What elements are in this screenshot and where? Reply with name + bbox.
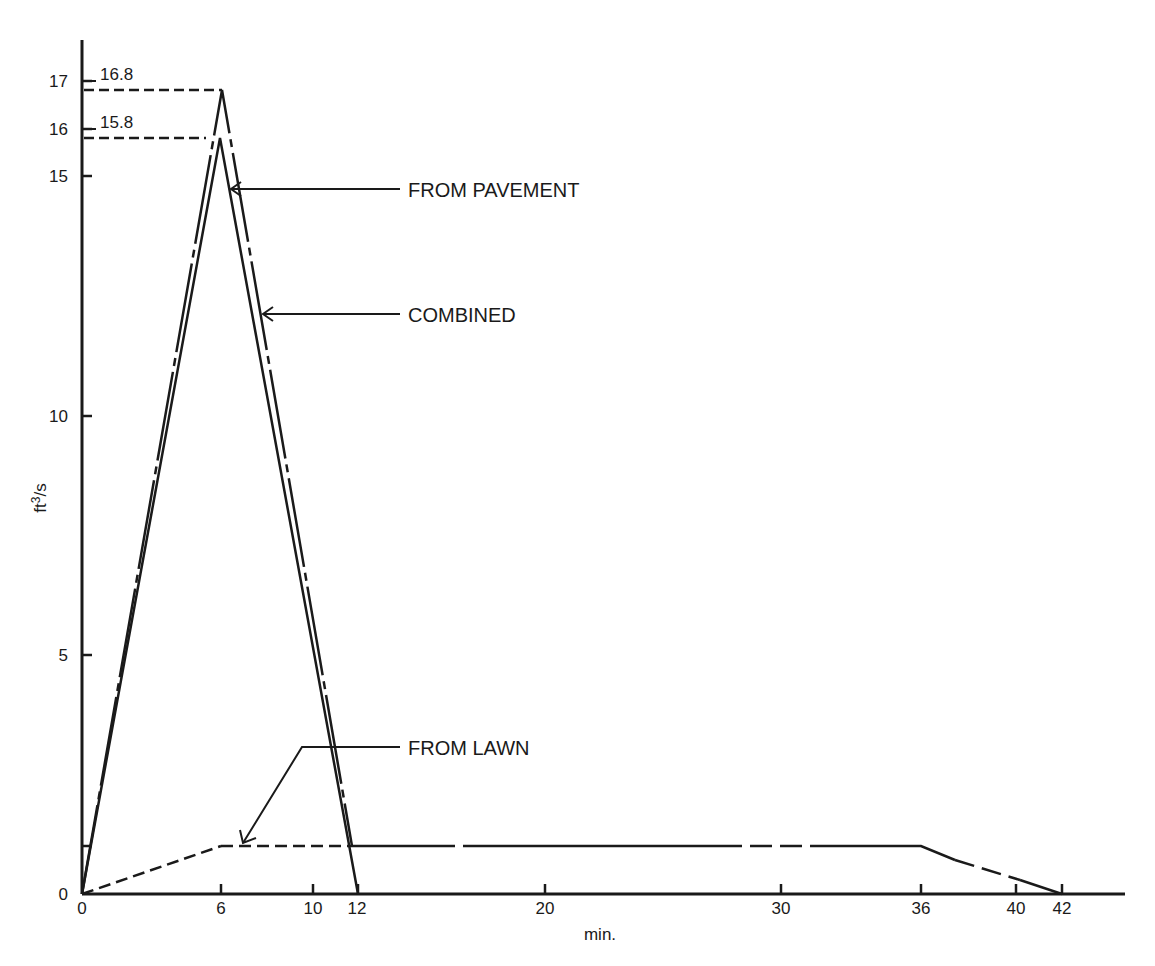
series-combined-recession-dashed <box>955 860 1020 880</box>
leader-combined <box>263 307 400 321</box>
series-from-pavement <box>82 138 358 894</box>
x-tick-36: 36 <box>912 899 931 918</box>
series-combined-recession-end <box>1020 880 1062 894</box>
x-axis-title: min. <box>584 925 616 944</box>
x-tick-10: 10 <box>304 899 323 918</box>
x-tick-12: 12 <box>348 899 367 918</box>
y-tick-0: 0 <box>59 885 68 904</box>
series-combined-plateau-4 <box>830 846 955 860</box>
label-from-lawn: FROM LAWN <box>408 737 529 759</box>
leader-from-pavement <box>231 182 400 196</box>
label-from-pavement: FROM PAVEMENT <box>408 179 579 201</box>
x-tick-20: 20 <box>536 899 555 918</box>
y-tick-labels: 17 16 15 10 5 0 <box>49 72 68 904</box>
y-tick-5: 5 <box>59 646 68 665</box>
peak-pavement-label: 15.8 <box>100 113 133 132</box>
y-axis-title: ft3/s <box>29 483 50 512</box>
series-combined <box>82 90 352 894</box>
hydrograph-chart: 17 16 15 10 5 0 0 6 10 12 20 30 36 40 42… <box>0 0 1155 966</box>
y-tick-17: 17 <box>49 72 68 91</box>
x-tick-6: 6 <box>216 899 225 918</box>
y-tick-10: 10 <box>49 407 68 426</box>
x-tick-42: 42 <box>1053 899 1072 918</box>
label-combined: COMBINED <box>408 304 516 326</box>
peak-tick-marks <box>92 81 96 129</box>
axes <box>82 40 1125 894</box>
peak-combined-label: 16.8 <box>100 65 133 84</box>
x-tick-0: 0 <box>77 899 86 918</box>
x-tick-labels: 0 6 10 12 20 30 36 40 42 <box>77 899 1071 918</box>
leader-from-lawn <box>240 747 400 843</box>
series-from-lawn <box>82 846 221 894</box>
y-tick-16: 16 <box>49 120 68 139</box>
y-tick-15: 15 <box>49 167 68 186</box>
x-tick-30: 30 <box>772 899 791 918</box>
x-tick-40: 40 <box>1007 899 1026 918</box>
